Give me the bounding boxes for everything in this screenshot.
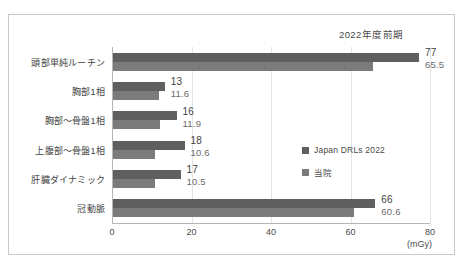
value-label-japan-drls: 77 [425, 47, 437, 58]
bar-japan-drls [113, 199, 375, 208]
bar-japan-drls [113, 170, 181, 179]
value-label-japan-drls: 66 [381, 194, 393, 205]
bar-own-hospital [113, 120, 160, 129]
legend-item-japan-drls: Japan DRLs 2022 [302, 145, 385, 155]
x-tick-label: 60 [345, 227, 355, 237]
legend-swatch-icon [302, 147, 309, 154]
bar-own-hospital [113, 62, 373, 71]
x-axis-unit-label: (mGy) [407, 239, 432, 249]
value-label-own-hospital: 11.9 [183, 118, 202, 129]
bar-own-hospital [113, 179, 155, 188]
value-label-own-hospital: 60.6 [381, 206, 400, 217]
value-label-japan-drls: 17 [187, 164, 199, 175]
bar-japan-drls [113, 111, 177, 120]
value-label-japan-drls: 16 [183, 106, 195, 117]
bar-own-hospital [113, 91, 159, 100]
bar-japan-drls [113, 53, 419, 62]
bar-group: 胸部1相1311.6 [112, 76, 430, 105]
legend-swatch-icon [302, 169, 309, 176]
value-label-own-hospital: 65.5 [425, 59, 444, 70]
legend-label: Japan DRLs 2022 [314, 145, 385, 155]
value-label-own-hospital: 10.5 [187, 176, 206, 187]
x-axis-line [112, 223, 430, 224]
value-label-own-hospital: 10.6 [191, 147, 210, 158]
value-label-own-hospital: 11.6 [171, 88, 190, 99]
value-label-japan-drls: 13 [171, 76, 183, 87]
x-tick-label: 0 [109, 227, 114, 237]
category-label: 胸部1相 [72, 84, 105, 97]
bar-own-hospital [113, 208, 354, 217]
plot-area: 頭部単純ルーチン7765.5胸部1相1311.6胸部〜骨盤1相1611.9上腹部… [112, 47, 430, 223]
bar-japan-drls [113, 82, 165, 91]
bar-group: 冠動脈6660.6 [112, 194, 430, 223]
chart-legend: Japan DRLs 2022 当院 [302, 145, 385, 189]
gridline [430, 47, 431, 223]
legend-label: 当院 [314, 166, 332, 178]
category-label: 胸部〜骨盤1相 [45, 114, 105, 127]
x-tick-label: 20 [186, 227, 196, 237]
x-tick-label: 80 [425, 227, 435, 237]
bar-japan-drls [113, 141, 185, 150]
category-label: 冠動脈 [77, 202, 105, 215]
bar-group: 頭部単純ルーチン7765.5 [112, 47, 430, 76]
chart-frame: 2022年度前期 頭部単純ルーチン7765.5胸部1相1311.6胸部〜骨盤1相… [8, 14, 455, 255]
bar-group: 胸部〜骨盤1相1611.9 [112, 106, 430, 135]
value-label-japan-drls: 18 [191, 135, 203, 146]
chart-title: 2022年度前期 [339, 27, 403, 41]
bar-own-hospital [113, 150, 155, 159]
category-label: 上腹部〜骨盤1相 [35, 143, 105, 156]
x-tick-label: 40 [266, 227, 276, 237]
category-label: 頭部単純ルーチン [31, 55, 105, 68]
legend-item-own-hospital: 当院 [302, 166, 385, 178]
category-label: 肝臓ダイナミック [31, 172, 105, 185]
